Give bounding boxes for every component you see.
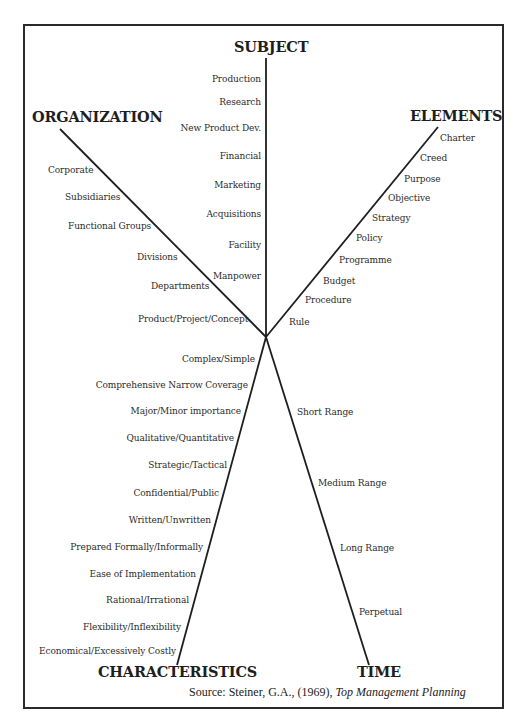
organization-item: Corporate xyxy=(48,165,94,176)
elements-item: Charter xyxy=(440,133,475,144)
organization-item: Divisions xyxy=(137,252,178,263)
time-item: Perpetual xyxy=(359,607,402,618)
characteristics-item: Flexibility/Inflexibility xyxy=(83,622,181,633)
subject-item: Facility xyxy=(228,240,261,251)
organization-header: ORGANIZATION xyxy=(32,109,162,125)
elements-item: Purpose xyxy=(404,174,441,185)
subject-item: Acquisitions xyxy=(206,209,261,220)
elements-item: Rule xyxy=(289,317,309,328)
elements-item: Strategy xyxy=(372,213,410,224)
subject-header: SUBJECT xyxy=(234,39,308,55)
characteristics-header: CHARACTERISTICS xyxy=(98,664,257,680)
organization-item: Product/Project/Concept xyxy=(138,314,248,325)
time-item: Medium Range xyxy=(318,478,386,489)
subject-item: Financial xyxy=(220,151,261,162)
characteristics-item: Rational/Irrational xyxy=(106,595,189,606)
time-header: TIME xyxy=(357,664,401,680)
source-citation: Source: Steiner, G.A., (1969), Top Manag… xyxy=(189,685,466,700)
source-prefix: Source: Steiner, G.A., (1969), xyxy=(189,685,336,699)
source-title: Top Management Planning xyxy=(336,685,466,699)
elements-item: Creed xyxy=(420,153,447,164)
elements-item: Objective xyxy=(388,193,430,204)
characteristics-item: Major/Minor importance xyxy=(131,406,241,417)
subject-item: Manpower xyxy=(213,271,261,282)
subject-item: Research xyxy=(219,97,261,108)
characteristics-item: Qualitative/Quantitative xyxy=(126,433,234,444)
subject-item: Marketing xyxy=(214,180,261,191)
elements-axis-line xyxy=(266,127,438,337)
elements-header: ELEMENTS xyxy=(410,108,502,124)
characteristics-item: Complex/Simple xyxy=(182,354,255,365)
characteristics-item: Strategic/Tactical xyxy=(148,460,227,471)
subject-item: New Product Dev. xyxy=(181,123,261,134)
characteristics-item: Comprehensive Narrow Coverage xyxy=(96,380,248,391)
characteristics-item: Written/Unwritten xyxy=(129,515,211,526)
time-axis-line xyxy=(266,337,369,665)
characteristics-item: Confidential/Public xyxy=(134,488,219,499)
elements-item: Programme xyxy=(339,255,392,266)
organization-item: Subsidiaries xyxy=(65,192,120,203)
elements-item: Policy xyxy=(356,233,382,244)
characteristics-item: Prepared Formally/Informally xyxy=(70,542,203,553)
subject-item: Production xyxy=(212,74,261,85)
organization-item: Departments xyxy=(151,281,209,292)
elements-item: Procedure xyxy=(305,295,351,306)
characteristics-item: Ease of Implementation xyxy=(89,569,196,580)
characteristics-item: Economical/Excessively Costly xyxy=(39,646,176,657)
time-item: Long Range xyxy=(340,543,394,554)
elements-item: Budget xyxy=(323,276,355,287)
organization-item: Functional Groups xyxy=(68,221,151,232)
time-item: Short Range xyxy=(297,407,353,418)
